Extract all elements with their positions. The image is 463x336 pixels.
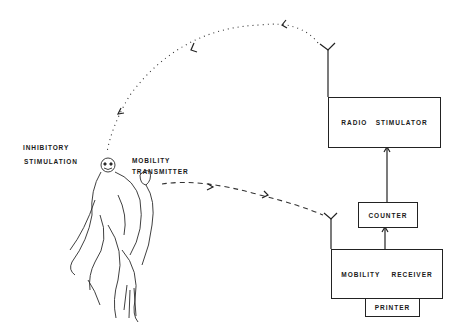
inhibitory-stimulation-label-line2: STIMULATION bbox=[24, 158, 78, 165]
stimulator-antenna-icon bbox=[320, 43, 335, 97]
receiver-antenna-icon bbox=[324, 213, 337, 249]
arrow-counter-to-stimulator bbox=[384, 147, 390, 202]
mobility-transmitter-label-line2: TRANSMITTER bbox=[132, 168, 188, 175]
counter-label: COUNTER bbox=[368, 212, 407, 219]
printer-label: PRINTER bbox=[375, 304, 411, 311]
arrow-receiver-to-counter bbox=[382, 227, 388, 249]
chevron-icon bbox=[118, 108, 124, 114]
mobility-receiver-box: MOBILITY RECEIVER bbox=[331, 249, 443, 299]
mobility-signal-path bbox=[162, 182, 323, 215]
chevron-icon bbox=[191, 43, 197, 52]
monkey-figure bbox=[70, 158, 153, 322]
printer-box: PRINTER bbox=[365, 298, 420, 317]
radio-stimulator-box: RADIO STIMULATOR bbox=[328, 97, 441, 148]
chevron-icon bbox=[282, 20, 287, 28]
chevron-icon bbox=[207, 184, 213, 190]
inhibitory-stimulation-label-line1: INHIBITORY bbox=[23, 144, 69, 151]
counter-box: COUNTER bbox=[358, 202, 418, 228]
radio-stimulator-label: RADIO STIMULATOR bbox=[341, 119, 427, 126]
inhibitory-signal-path bbox=[107, 24, 318, 152]
mobility-receiver-label: MOBILITY RECEIVER bbox=[341, 271, 432, 278]
mobility-transmitter-label-line1: MOBILITY bbox=[132, 157, 170, 164]
chevron-icon bbox=[262, 191, 268, 198]
